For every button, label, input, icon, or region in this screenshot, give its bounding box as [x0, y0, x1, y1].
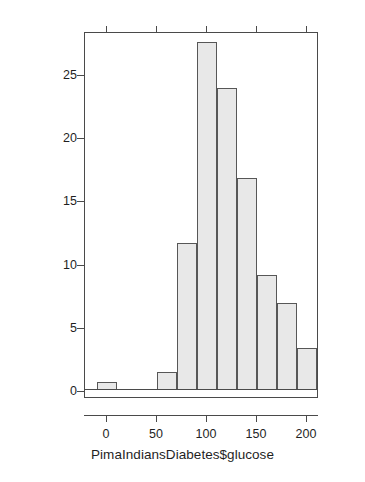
- y-tick-mark: [77, 138, 84, 139]
- y-tick-mark: [77, 328, 84, 329]
- y-tick-label: 20: [47, 132, 77, 145]
- histogram-bar: [277, 303, 297, 390]
- y-tick-labels: 0510152025: [40, 32, 77, 398]
- histogram-bar: [177, 243, 197, 390]
- x-tick-label: 200: [286, 428, 326, 441]
- histogram-bar: [297, 348, 317, 390]
- histogram-bar: [237, 178, 257, 390]
- y-axis-title: Percent of Total: [0, 0, 34, 482]
- x-axis-title: PimaIndiansDiabetes$glucose: [0, 447, 365, 462]
- x-tick-mark: [106, 415, 107, 422]
- x-top-tick-marks: [84, 25, 318, 33]
- x-tick-marks-and-labels: 050100150200: [84, 415, 318, 445]
- y-tick-mark: [77, 391, 84, 392]
- x-tick-label: 0: [86, 428, 126, 441]
- x-tick-label: 100: [186, 428, 226, 441]
- plot-area: [84, 32, 318, 398]
- x-top-tick-mark: [206, 26, 207, 33]
- y-tick-label: 25: [47, 69, 77, 82]
- histogram-figure: Percent of Total 0510152025 050100150200…: [0, 0, 365, 482]
- x-tick-mark: [256, 415, 257, 422]
- baseline: [85, 389, 317, 390]
- x-tick-label: 150: [236, 428, 276, 441]
- x-tick-mark: [156, 415, 157, 422]
- x-tick-mark: [306, 415, 307, 422]
- x-top-tick-mark: [156, 26, 157, 33]
- x-top-tick-mark: [306, 26, 307, 33]
- y-tick-mark: [77, 201, 84, 202]
- y-tick-mark: [77, 75, 84, 76]
- x-tick-label: 50: [136, 428, 176, 441]
- bars-layer: [85, 33, 317, 397]
- y-tick-label: 5: [47, 322, 77, 335]
- x-top-tick-mark: [106, 26, 107, 33]
- x-tick-mark: [206, 415, 207, 422]
- histogram-bar: [157, 372, 177, 390]
- histogram-bar: [217, 88, 237, 390]
- y-tick-marks: [84, 32, 85, 398]
- y-tick-label: 10: [47, 259, 77, 272]
- y-tick-mark: [77, 265, 84, 266]
- x-top-tick-mark: [256, 26, 257, 33]
- y-tick-label: 0: [47, 385, 77, 398]
- histogram-bar: [257, 275, 277, 390]
- histogram-bar: [197, 42, 217, 390]
- y-tick-label: 15: [47, 195, 77, 208]
